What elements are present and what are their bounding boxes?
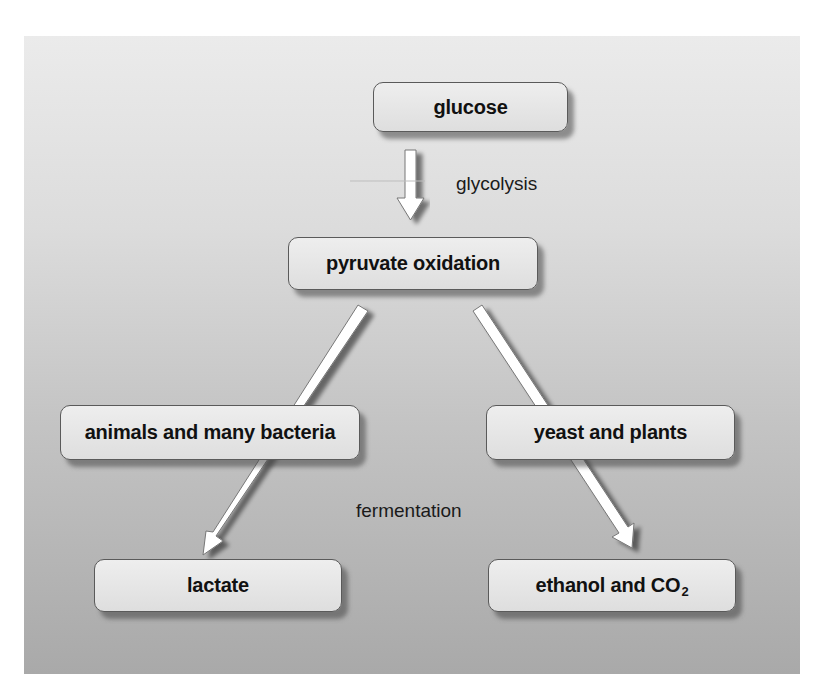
node-animals-label: animals and many bacteria xyxy=(85,421,336,444)
label-glycolysis: glycolysis xyxy=(456,173,537,195)
node-glucose: glucose xyxy=(373,82,568,132)
node-ethanol-subscript: 2 xyxy=(681,584,688,599)
node-pyruvate-oxidation: pyruvate oxidation xyxy=(288,237,538,290)
node-yeast-and-plants: yeast and plants xyxy=(486,405,735,460)
node-yeast-label: yeast and plants xyxy=(534,421,688,444)
node-glucose-label: glucose xyxy=(433,96,507,119)
node-lactate: lactate xyxy=(94,559,342,612)
node-lactate-label: lactate xyxy=(187,574,249,597)
node-ethanol-and-co2: ethanol and CO2 xyxy=(488,559,736,612)
node-pyruvate-label: pyruvate oxidation xyxy=(326,252,500,275)
glycolysis-arrow-icon xyxy=(397,150,424,220)
label-fermentation: fermentation xyxy=(356,500,462,522)
node-animals-and-many-bacteria: animals and many bacteria xyxy=(60,405,360,460)
node-ethanol-label: ethanol and CO xyxy=(535,574,680,597)
